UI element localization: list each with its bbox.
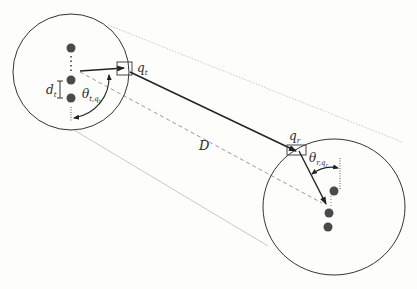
dt-sub: t xyxy=(54,91,57,99)
receiver-node-3 xyxy=(324,223,333,232)
link-line xyxy=(130,72,296,151)
label-distance: D xyxy=(199,139,209,152)
diagram-canvas: qt qr dt θt,qt θr,qr D xyxy=(0,0,417,289)
dt-base: d xyxy=(46,83,54,97)
transmitter-node-2 xyxy=(67,76,76,85)
transmitter-node-3 xyxy=(67,94,76,103)
theta-r-sub: r,q xyxy=(316,159,325,167)
receiver-node-1 xyxy=(330,187,339,196)
receiver-node-2 xyxy=(325,209,334,218)
label-dt: dt xyxy=(46,84,57,99)
transmitter-node-1 xyxy=(67,44,76,53)
receiver-circle xyxy=(263,139,405,275)
label-theta-r: θr,qr xyxy=(309,152,328,169)
qr-base: q xyxy=(289,129,297,143)
theta-r-subsub: r xyxy=(326,163,328,169)
label-qt: qt xyxy=(137,62,148,77)
qt-sub: t xyxy=(145,69,148,77)
label-qr: qr xyxy=(289,130,300,145)
theta-t-sub: t,q xyxy=(89,95,99,103)
label-theta-t: θt,qt xyxy=(82,88,101,105)
upper-guide-line xyxy=(108,25,402,142)
lower-guide-line xyxy=(74,130,268,246)
qt-base: q xyxy=(137,61,145,75)
qr-sub: r xyxy=(297,137,300,145)
theta-t-subsub: t xyxy=(99,99,101,105)
